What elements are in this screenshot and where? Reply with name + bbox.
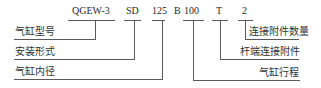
leader-rod-end xyxy=(220,20,221,60)
leader-model xyxy=(95,20,96,40)
underline-mount xyxy=(124,20,141,21)
leader-bore xyxy=(162,20,163,80)
baseline-cylinder-bore xyxy=(14,79,163,80)
label-cylinder-bore: 气缸内径 xyxy=(15,66,55,78)
baseline-attachment-count xyxy=(245,39,299,40)
leader-count xyxy=(245,20,246,40)
label-cylinder-model: 气缸型号 xyxy=(15,26,55,38)
code-model: QGEW-3 xyxy=(72,5,110,17)
code-sep: B xyxy=(174,5,181,17)
underline-bore xyxy=(152,20,165,21)
label-mounting-type: 安装形式 xyxy=(15,46,55,58)
code-bore: 125 xyxy=(152,5,167,17)
code-stroke: 100 xyxy=(184,5,199,17)
leader-stroke xyxy=(193,20,194,81)
code-mount: SD xyxy=(126,5,139,17)
leader-mount xyxy=(134,20,135,60)
underline-model xyxy=(68,20,115,21)
label-attachment-count: 连接附件数量 xyxy=(249,26,309,38)
label-rod-end-attachment: 杆端连接附件 xyxy=(240,46,300,58)
baseline-rod-end-attachment xyxy=(220,59,299,60)
baseline-cylinder-model xyxy=(14,39,96,40)
baseline-cylinder-stroke xyxy=(193,80,300,81)
label-cylinder-stroke: 气缸行程 xyxy=(259,67,299,79)
code-rod-end: T xyxy=(216,5,222,17)
baseline-mounting-type xyxy=(14,59,135,60)
code-count: 2 xyxy=(242,5,247,17)
